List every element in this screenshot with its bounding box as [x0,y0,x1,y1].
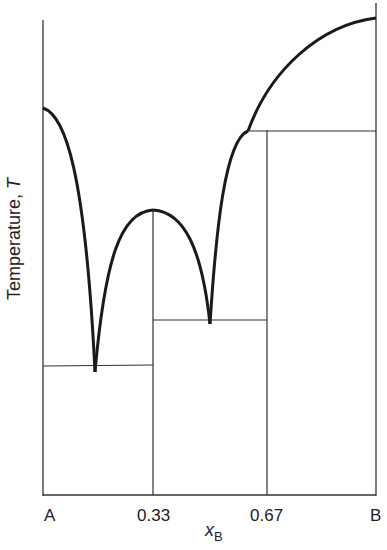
liquidus-peritectic [210,131,248,324]
tick-label-033: 0.33 [137,507,170,524]
x-axis-label: xB [205,520,223,544]
y-axis-label-text: Temperature, [4,189,24,300]
tick-label-A: A [44,507,55,524]
liquidus-compound-left [95,210,153,372]
liquidus-B [248,18,376,131]
x-axis-label-var: x [205,520,214,540]
liquidus-A [43,108,95,372]
tick-label-B: B [370,507,381,524]
y-axis-label: Temperature, T [4,178,25,300]
phase-diagram [0,0,387,550]
tick-label-067: 0.67 [250,507,283,524]
x-axis-label-sub: B [214,529,223,544]
liquidus-compound-right [153,210,210,324]
y-axis-label-var: T [4,178,24,189]
eutectic-line-1 [43,365,153,366]
